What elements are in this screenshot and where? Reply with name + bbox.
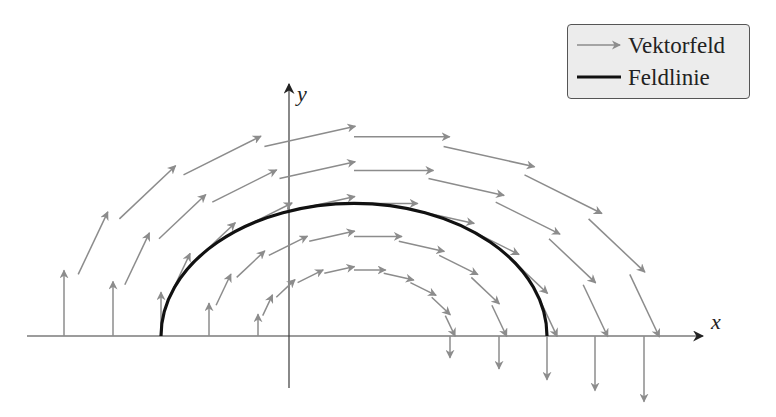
field-arrow xyxy=(471,277,499,304)
field-arrow xyxy=(298,270,324,283)
field-arrow xyxy=(410,283,436,296)
field-arrow xyxy=(589,219,645,272)
field-arrow xyxy=(630,274,660,337)
field-arrow xyxy=(432,297,451,315)
legend-entry-vector-field: Vektorfeld xyxy=(576,30,725,60)
field-arrow xyxy=(125,233,150,285)
gray-arrow-icon xyxy=(576,39,622,51)
field-arrow xyxy=(269,236,308,255)
field-arrow xyxy=(429,179,505,196)
legend-entry-field-line: Feldlinie xyxy=(576,62,710,92)
field-arrow xyxy=(184,136,262,175)
field-arrow xyxy=(324,267,354,274)
field-arrow xyxy=(445,316,455,337)
field-arrow xyxy=(444,147,535,167)
legend: Vektorfeld Feldlinie xyxy=(567,24,750,99)
legend-label-field-line: Feldlinie xyxy=(628,66,710,89)
vector-field-arrows xyxy=(64,126,659,402)
field-arrow xyxy=(525,175,602,214)
field-arrow xyxy=(212,170,276,202)
field-arrow xyxy=(237,251,265,278)
field-arrow xyxy=(264,126,355,146)
x-axis-label: x xyxy=(711,311,721,333)
field-arrow xyxy=(216,274,231,305)
field-arrow xyxy=(276,280,295,298)
field-arrow xyxy=(492,305,507,336)
field-arrow xyxy=(309,231,355,241)
field-arrow xyxy=(496,202,560,234)
black-line-icon xyxy=(576,71,622,83)
field-arrow xyxy=(384,273,414,280)
field-arrow xyxy=(263,295,273,316)
field-arrow xyxy=(159,195,206,239)
field-arrow xyxy=(549,239,596,283)
legend-label-vector-field: Vektorfeld xyxy=(628,34,725,57)
field-arrow xyxy=(439,255,478,274)
field-arrow xyxy=(399,241,445,251)
field-arrow xyxy=(280,162,356,179)
y-axis-label: y xyxy=(297,83,307,105)
field-arrow xyxy=(78,212,108,275)
field-arrow xyxy=(119,166,175,219)
field-arrow xyxy=(583,285,608,337)
